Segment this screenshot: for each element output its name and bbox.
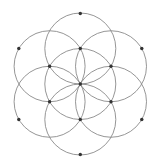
node-outer-top <box>79 12 82 15</box>
node-inner-top <box>79 47 82 50</box>
seed-of-life-diagram <box>0 0 164 162</box>
node-inner-upper-left <box>48 65 51 68</box>
node-inner-bottom <box>79 118 82 121</box>
node-inner-lower-left <box>48 100 51 103</box>
node-inner-upper-right <box>109 65 112 68</box>
node-outer-upper-left <box>17 47 20 50</box>
node-center <box>79 82 82 85</box>
node-outer-lower-left <box>17 118 20 121</box>
node-outer-lower-right <box>140 118 143 121</box>
node-inner-lower-right <box>109 100 112 103</box>
node-outer-bottom <box>79 153 82 156</box>
node-outer-upper-right <box>140 47 143 50</box>
